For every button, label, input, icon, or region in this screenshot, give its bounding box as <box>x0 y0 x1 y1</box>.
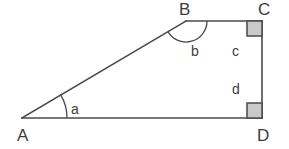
geometry-diagram: A B C D a b c d <box>0 0 289 149</box>
edge-ab <box>22 21 186 118</box>
segment-label-d: d <box>232 81 240 97</box>
segment-label-c: c <box>232 43 239 59</box>
diagram-canvas: A B C D a b c d <box>0 0 289 149</box>
vertex-label-b: B <box>179 0 190 19</box>
vertex-label-c: C <box>258 0 270 19</box>
right-angle-marker-c <box>247 21 262 36</box>
right-angle-marker-d <box>247 103 262 118</box>
angle-label-alpha: a <box>71 101 79 117</box>
vertex-label-d: D <box>257 126 269 145</box>
angle-arc-alpha-a <box>60 94 67 118</box>
vertex-label-a: A <box>17 126 29 145</box>
angle-arc-b <box>168 21 207 42</box>
angle-label-b: b <box>191 43 199 59</box>
